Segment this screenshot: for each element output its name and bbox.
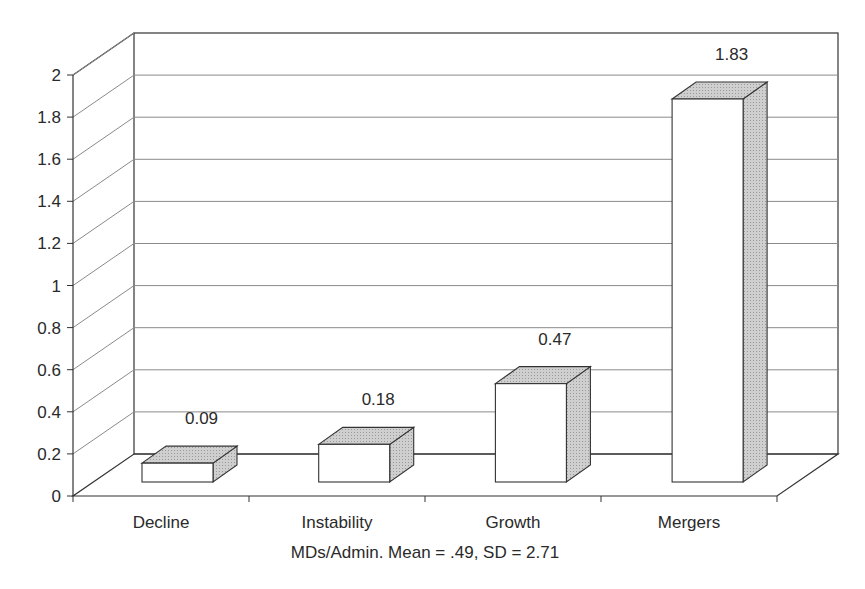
bar-mergers: 1.83 xyxy=(672,45,767,482)
y-tick-label: 1.2 xyxy=(37,234,61,253)
y-tick-label: 1.4 xyxy=(37,192,61,211)
data-label: 0.18 xyxy=(362,390,395,409)
y-tick-label: 1.8 xyxy=(37,108,61,127)
x-tick-label: Instability xyxy=(302,513,373,532)
x-axis: DeclineInstabilityGrowthMergers xyxy=(73,496,777,532)
y-tick-label: 0.6 xyxy=(37,361,61,380)
y-tick-label: 0.4 xyxy=(37,403,61,422)
y-tick-label: 1 xyxy=(52,277,61,296)
data-label: 0.09 xyxy=(185,409,218,428)
y-tick-label: 0.8 xyxy=(37,319,61,338)
y-tick-label: 1.6 xyxy=(37,150,61,169)
y-tick-label: 0 xyxy=(52,487,61,506)
x-tick-label: Decline xyxy=(133,513,190,532)
bar-instability: 0.18 xyxy=(319,390,414,482)
y-tick-label: 0.2 xyxy=(37,445,61,464)
y-axis: 00.20.40.60.811.21.41.61.82 xyxy=(37,66,73,506)
x-tick-label: Growth xyxy=(486,513,541,532)
x-axis-title: MDs/Admin. Mean = .49, SD = 2.71 xyxy=(291,543,559,562)
bar-growth: 0.47 xyxy=(495,330,590,482)
y-tick-label: 2 xyxy=(52,66,61,85)
x-tick-label: Mergers xyxy=(658,513,720,532)
bars: 0.090.180.471.83 xyxy=(142,45,767,482)
bar-chart: 00.20.40.60.811.21.41.61.82 0.090.180.47… xyxy=(0,0,865,589)
data-label: 1.83 xyxy=(715,45,748,64)
bar-decline: 0.09 xyxy=(142,409,237,482)
data-label: 0.47 xyxy=(538,330,571,349)
